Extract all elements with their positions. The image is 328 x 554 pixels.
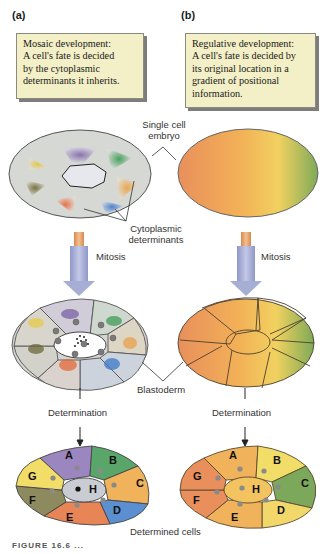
label-line: determinants — [120, 234, 192, 245]
label-line: Cytoplasmic — [120, 223, 192, 234]
cell-b-label: B — [273, 455, 281, 466]
cell-g-label: G — [193, 471, 202, 482]
determined-cells-b — [180, 446, 316, 528]
nucleus-h-a — [75, 486, 80, 491]
cell-h-label: H — [89, 484, 97, 495]
cell-d-label: D — [113, 505, 121, 516]
cell-c-label: C — [301, 478, 309, 489]
cell-a-label: A — [65, 450, 73, 461]
mitosis-label-b: Mitosis — [261, 251, 291, 262]
mitosis-arrow-a — [63, 232, 95, 296]
single-cell-embryo-label: Single cell embryo — [138, 119, 190, 141]
cell-e-label: E — [231, 512, 238, 523]
single-cell-embryo-b — [178, 129, 318, 217]
cell-e-label: E — [66, 512, 73, 523]
cell-a-label: A — [229, 450, 237, 461]
blastoderm-label: Blastoderm — [137, 384, 185, 395]
cell-h-label: H — [252, 484, 260, 495]
single-cell-pointer — [152, 147, 176, 160]
determination-label-b: Determination — [212, 407, 271, 418]
determination-label-a: Determination — [48, 407, 107, 418]
mitosis-label-a: Mitosis — [96, 251, 126, 262]
single-cell-embryo-a — [9, 130, 151, 218]
blastoderm-b — [178, 298, 314, 388]
cytoplasmic-determinants-label: Cytoplasmic determinants — [120, 223, 192, 245]
diagram-graphics — [0, 0, 328, 554]
label-line: embryo — [138, 130, 190, 141]
cell-f-label: F — [29, 495, 36, 506]
figure-caption: FIGURE 16.6 ... — [12, 541, 84, 550]
mitosis-arrow-b — [230, 232, 262, 296]
cell-d-label: D — [277, 505, 285, 516]
determined-cells-a — [16, 446, 149, 525]
label-line: Single cell — [138, 119, 190, 130]
cell-c-label: C — [136, 478, 144, 489]
determined-cells-label: Determined cells — [130, 526, 201, 537]
cell-f-label: F — [193, 495, 200, 506]
cell-b-label: B — [109, 455, 117, 466]
cell-g-label: G — [28, 471, 37, 482]
blastoderm-pointer — [142, 362, 183, 381]
